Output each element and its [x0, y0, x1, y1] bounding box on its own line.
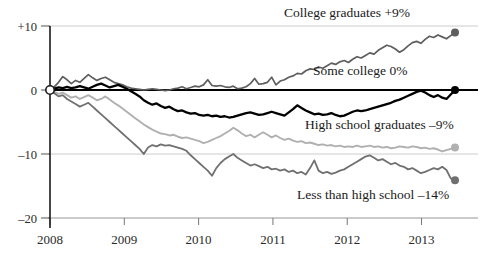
x-tick-label: 2010 — [186, 232, 212, 247]
x-tick-label: 2008 — [37, 232, 63, 247]
chart-container: +100–10–20 200820092010201120122013 Coll… — [0, 0, 483, 261]
x-tick-labels: 200820092010201120122013 — [37, 232, 435, 247]
series-end-marker-3 — [451, 176, 459, 184]
series-end-marker-0 — [451, 28, 459, 36]
x-tick-label: 2013 — [409, 232, 435, 247]
series-label-0: College graduates +9% — [284, 5, 410, 20]
line-chart: +100–10–20 200820092010201120122013 Coll… — [0, 0, 483, 261]
origin-marker — [46, 86, 54, 94]
series-label-2: High school graduates –9% — [305, 117, 454, 132]
y-tick-label: –10 — [17, 148, 37, 162]
x-tick-label: 2011 — [260, 232, 286, 247]
y-tick-labels: +100–10–20 — [17, 20, 37, 226]
y-tick-label: –20 — [17, 212, 37, 226]
y-tick-label: 0 — [31, 84, 37, 98]
series-label-3: Less than high school –14% — [297, 187, 449, 202]
series-markers — [46, 28, 459, 184]
y-tick-label: +10 — [17, 20, 37, 34]
x-tick-label: 2012 — [334, 232, 360, 247]
series-end-marker-1 — [451, 86, 459, 94]
series-end-marker-2 — [451, 144, 459, 152]
series-line-0 — [50, 32, 455, 90]
series-lines — [50, 32, 455, 180]
x-tick-label: 2009 — [111, 232, 137, 247]
series-labels: College graduates +9%Some college 0%High… — [284, 5, 454, 202]
series-label-1: Some college 0% — [313, 63, 407, 78]
